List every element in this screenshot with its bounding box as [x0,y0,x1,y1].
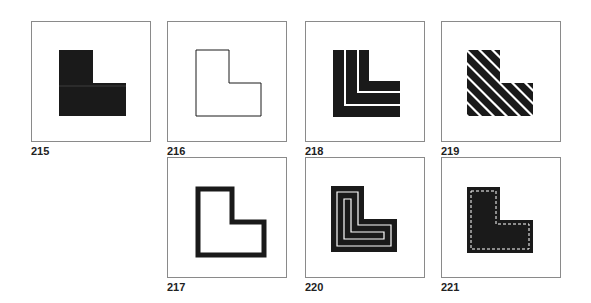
l-shape-solid-icon [32,22,152,143]
figure-221-frame [441,157,561,278]
figure-219-frame [441,21,561,142]
figure-220-frame [305,157,425,278]
l-shape-diagonal-stripes-icon [442,22,562,143]
figure-217-frame [167,157,287,278]
l-shape-outline-thick-icon [168,158,288,279]
l-shape-parallel-bands-icon [306,22,426,143]
l-shape-concentric-outlines-icon [306,158,426,279]
figure-216-frame [167,21,287,142]
figure-label-216: 216 [167,145,185,157]
l-shape-outline-thin-icon [168,22,288,143]
figure-label-218: 218 [305,145,323,157]
figure-label-220: 220 [305,281,323,293]
figure-label-221: 221 [441,281,459,293]
l-shape-dashed-inset-icon [442,158,562,279]
figure-218-frame [305,21,425,142]
figure-label-217: 217 [167,281,185,293]
figure-215-frame [31,21,151,142]
figure-label-219: 219 [441,145,459,157]
figure-label-215: 215 [31,145,49,157]
